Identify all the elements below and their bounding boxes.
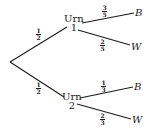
- numerator: 1: [36, 28, 40, 33]
- leaf-urn2-b: B: [134, 82, 141, 92]
- denominator: 5: [100, 46, 104, 51]
- node-number: 1: [64, 23, 84, 32]
- prob-urn1-b: 3 5: [102, 5, 107, 17]
- denominator: 5: [102, 12, 106, 17]
- leaf-urn1-b: B: [135, 8, 142, 18]
- node-number: 2: [62, 101, 82, 110]
- numerator: 2: [100, 39, 104, 44]
- denominator: 2: [36, 89, 40, 94]
- prob-urn1-w: 2 5: [100, 39, 105, 51]
- denominator: 2: [36, 35, 40, 40]
- leaf-urn2-w: W: [132, 115, 142, 125]
- prob-root-urn2: 1 2: [36, 82, 41, 94]
- numerator: 2: [100, 113, 104, 118]
- numerator: 1: [101, 80, 105, 85]
- prob-root-urn1: 1 2: [36, 28, 41, 40]
- numerator: 3: [102, 5, 106, 10]
- edge-urn1-b: [82, 13, 134, 23]
- denominator: 3: [101, 87, 105, 92]
- prob-urn2-b: 1 3: [101, 80, 106, 92]
- node-urn-2: Urn 2: [62, 92, 82, 110]
- edge-urn2-b: [80, 87, 133, 98]
- leaf-urn1-w: W: [131, 42, 141, 52]
- prob-urn2-w: 2 3: [100, 113, 105, 125]
- node-urn-1: Urn 1: [64, 14, 84, 32]
- numerator: 1: [36, 82, 40, 87]
- denominator: 3: [100, 120, 104, 125]
